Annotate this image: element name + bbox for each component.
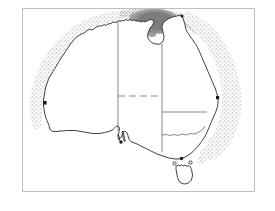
tasmania-outline	[176, 165, 193, 185]
figure-canvas	[0, 0, 275, 211]
record-bass-strait	[180, 157, 183, 160]
spencer-gulf-detail	[122, 132, 125, 142]
record-gulf-st-vincent	[119, 140, 122, 143]
king-island	[173, 162, 176, 165]
record-east-coast	[216, 96, 219, 99]
australia-distribution-map	[0, 0, 275, 211]
flinders-island	[189, 161, 192, 164]
record-cape-york	[181, 15, 184, 18]
record-southwest-cape	[43, 101, 47, 105]
